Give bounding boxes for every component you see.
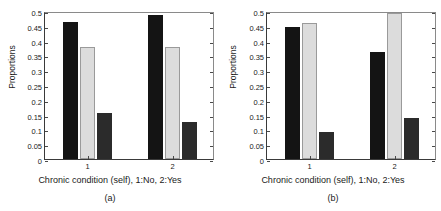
x-axis-tick-mark [395,156,396,159]
y-axis-tick-label: 0.5 [254,9,264,18]
y-axis-tick-mark [210,57,213,58]
y-axis-tick-label: 0.5 [32,9,42,18]
x-axis-tick-label: 1 [85,162,89,171]
x-axis-title: Chronic condition (self), 1:No, 2:Yes [0,175,220,185]
y-axis-tick-label: 0.2 [32,97,42,106]
y-axis-tick-mark [45,117,48,118]
y-axis-tick-label: 0.15 [249,112,264,121]
y-axis-tick-mark [267,28,270,29]
y-axis-tick-mark [432,117,435,118]
x-axis-tick-mark [88,156,89,159]
y-axis-tick-mark [45,13,48,14]
y-axis-tick-mark [432,57,435,58]
bar-series-1-group-1 [63,22,79,159]
bar-series-3-group-1 [319,132,335,159]
y-axis-tick-mark [45,43,48,44]
x-axis-title: Chronic condition (self), 1:No, 2:Yes [223,175,441,185]
y-axis-tick-label: 0.35 [27,53,42,62]
y-axis-tick-mark [267,117,270,118]
y-axis-tick-mark [267,43,270,44]
y-axis-tick-mark [432,146,435,147]
y-axis-tick-label: 0.4 [254,38,264,47]
x-axis-tick-label: 2 [392,162,396,171]
bar-series-1-group-2 [148,15,164,159]
y-axis-tick-mark [432,43,435,44]
y-axis-tick-label: 0.45 [27,23,42,32]
y-axis-tick-mark [210,72,213,73]
y-axis-tick-mark [432,72,435,73]
plot-area-a: 00.050.10.150.20.250.30.350.40.450.512 [44,12,214,160]
y-axis-tick-label: 0.35 [249,53,264,62]
bar-series-2-group-2 [165,47,181,159]
y-axis-title: Proportions [7,22,17,112]
x-axis-tick-label: 2 [170,162,174,171]
y-axis-tick-mark [267,161,270,162]
y-axis-tick-mark [45,57,48,58]
x-axis-tick-mark [310,156,311,159]
y-axis-tick-label: 0.4 [32,38,42,47]
y-axis-tick-mark [267,146,270,147]
bar-series-3-group-1 [97,113,113,159]
y-axis-tick-label: 0.05 [249,142,264,151]
y-axis-tick-mark [210,28,213,29]
y-axis-tick-label: 0.15 [27,112,42,121]
y-axis-tick-mark [267,102,270,103]
y-axis-tick-mark [45,161,48,162]
y-axis-tick-mark [432,28,435,29]
y-axis-tick-mark [210,43,213,44]
y-axis-tick-mark [267,87,270,88]
panel-caption: (a) [0,193,220,203]
panel-caption: (b) [223,193,441,203]
x-axis-tick-label: 1 [307,162,311,171]
chart-panel-b: Proportions 00.050.10.150.20.250.30.350.… [221,0,441,211]
y-axis-tick-label: 0.05 [27,142,42,151]
bar-series-2-group-2 [387,13,403,159]
bar-series-3-group-2 [182,122,198,159]
y-axis-tick-mark [45,28,48,29]
y-axis-tick-label: 0 [38,157,42,166]
y-axis-tick-mark [267,72,270,73]
y-axis-tick-mark [210,87,213,88]
y-axis-tick-mark [267,57,270,58]
bar-series-2-group-1 [302,23,318,159]
y-axis-tick-label: 0.45 [249,23,264,32]
y-axis-tick-mark [45,146,48,147]
bar-series-1-group-2 [370,52,386,159]
y-axis-tick-mark [432,161,435,162]
y-axis-tick-mark [210,102,213,103]
y-axis-tick-label: 0.1 [32,127,42,136]
y-axis-tick-mark [45,72,48,73]
y-axis-tick-label: 0.3 [254,68,264,77]
y-axis-tick-mark [432,87,435,88]
y-axis-tick-mark [45,131,48,132]
bar-series-3-group-2 [404,118,420,159]
y-axis-tick-mark [267,13,270,14]
y-axis-tick-mark [210,146,213,147]
y-axis-tick-mark [210,161,213,162]
y-axis-tick-mark [210,131,213,132]
y-axis-tick-mark [432,131,435,132]
x-axis-tick-mark [173,156,174,159]
figure-two-panel-bar-charts: Proportions 00.050.10.150.20.250.30.350.… [0,0,441,211]
y-axis-tick-mark [432,13,435,14]
y-axis-tick-label: 0.2 [254,97,264,106]
y-axis-tick-mark [45,87,48,88]
y-axis-tick-label: 0.25 [27,83,42,92]
y-axis-tick-label: 0 [260,157,264,166]
y-axis-tick-label: 0.3 [32,68,42,77]
bar-series-2-group-1 [80,47,96,159]
y-axis-tick-label: 0.25 [249,83,264,92]
y-axis-tick-mark [210,117,213,118]
plot-area-b: 00.050.10.150.20.250.30.350.40.450.512 [266,12,436,160]
y-axis-title: Proportions [228,22,238,112]
y-axis-tick-mark [45,102,48,103]
y-axis-tick-mark [432,102,435,103]
bar-series-1-group-1 [285,27,301,159]
y-axis-tick-label: 0.1 [254,127,264,136]
y-axis-tick-mark [267,131,270,132]
y-axis-tick-mark [210,13,213,14]
chart-panel-a: Proportions 00.050.10.150.20.250.30.350.… [0,0,220,211]
